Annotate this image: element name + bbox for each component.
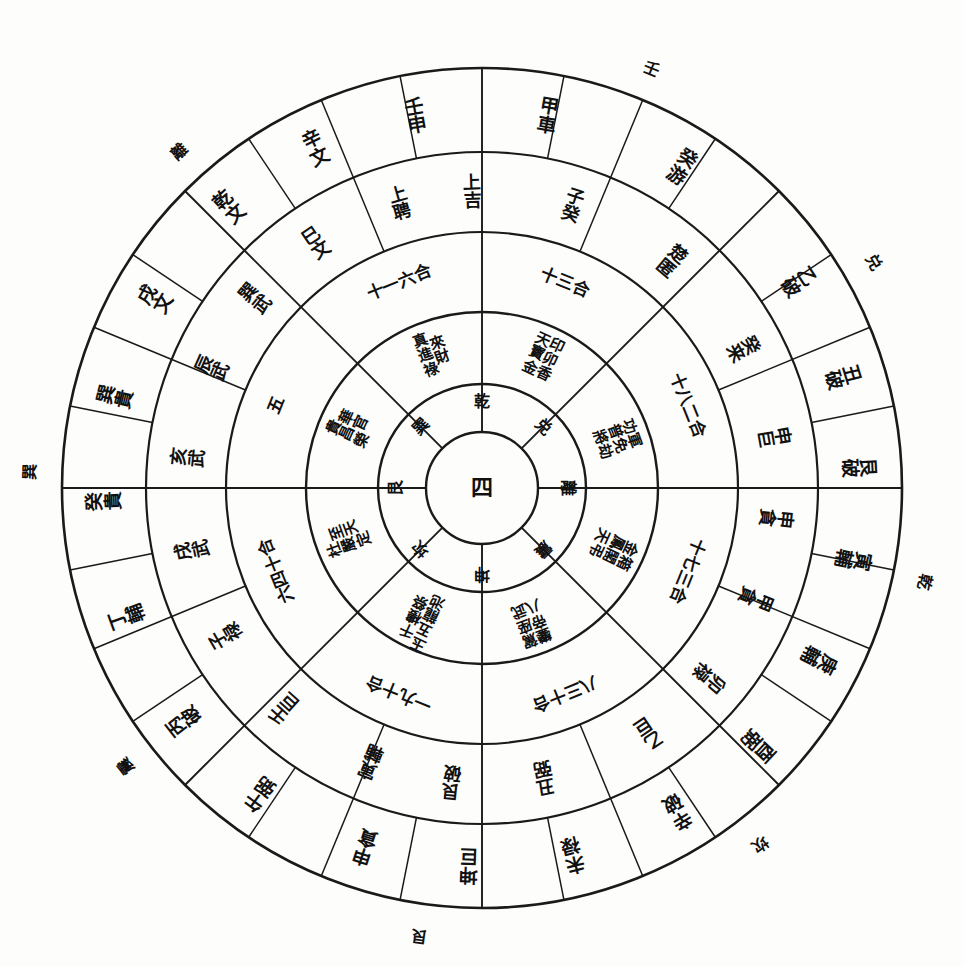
- mid-ring-cell-8[interactable]: 丑弼: [503, 737, 584, 818]
- glyph: 破: [442, 763, 462, 783]
- glyph: 艮: [388, 480, 404, 496]
- glyph: 巨: [754, 428, 775, 449]
- glyph: 乾: [474, 394, 490, 410]
- mid-ring-cell-3[interactable]: 申巨: [734, 397, 813, 476]
- glyph: 艮: [859, 458, 879, 478]
- outer-ring-cell-0[interactable]: 甲車: [508, 76, 587, 155]
- glyph: 榮: [352, 430, 372, 450]
- glyph: 禄: [560, 834, 583, 857]
- glyph: 五: [265, 394, 287, 416]
- outer-ring-cell-20[interactable]: 壬申: [377, 76, 456, 155]
- glyph: 貴: [113, 387, 136, 410]
- outside-label-4: 艮: [381, 897, 458, 966]
- glyph: 離: [168, 141, 191, 164]
- glyph: 巽: [410, 416, 433, 439]
- glyph: 貪: [356, 826, 380, 850]
- mid-ring-cell-4[interactable]: 申貪: [739, 482, 814, 557]
- glyph: 武: [187, 448, 207, 468]
- outer-ring-cell-4[interactable]: 艮破: [824, 432, 895, 503]
- core-center-glyph: 四: [448, 454, 516, 522]
- mid-ring-cell-14[interactable]: 亥武: [150, 420, 225, 495]
- outside-label-2: 乾: [884, 542, 964, 623]
- glyph: 文: [308, 144, 334, 170]
- glyph: 癸: [559, 204, 582, 227]
- glyph: 乾: [914, 572, 933, 591]
- outside-label-6: 巽: [0, 437, 65, 507]
- glyph: 弼: [531, 758, 552, 780]
- outer-ring-cell-5[interactable]: 寅輔: [813, 520, 893, 600]
- glyph: 貪: [736, 584, 760, 608]
- glyph: 申: [407, 114, 429, 136]
- glyph: 坎: [749, 833, 772, 856]
- glyph: 巽: [22, 464, 39, 481]
- glyph: 武: [208, 359, 232, 383]
- glyph: 文: [150, 291, 176, 317]
- mid-ring-cell-9[interactable]: 艮破: [414, 745, 489, 820]
- glyph: 吉: [463, 192, 482, 211]
- glyph: 離: [560, 480, 576, 496]
- glyph: 坤: [474, 566, 490, 582]
- glyph: 震: [114, 755, 137, 778]
- glyph: 巨: [459, 846, 479, 866]
- glyph: 輔: [124, 602, 149, 626]
- mid-ring-cell-19[interactable]: 上吉: [436, 157, 506, 227]
- glyph: 兑: [862, 251, 884, 273]
- glyph: 坤: [459, 865, 479, 885]
- glyph: 壬: [641, 58, 662, 79]
- glyph: 車: [535, 114, 557, 136]
- mid-ring-cell-13[interactable]: 戌武: [152, 509, 233, 590]
- glyph: 兑: [531, 416, 554, 439]
- glyph: 艮: [410, 926, 428, 944]
- glyph: 武: [191, 537, 213, 558]
- glyph: 震: [531, 537, 554, 560]
- glyph: 貪: [757, 508, 777, 528]
- glyph: 破: [822, 368, 846, 392]
- glyph: 輔: [832, 547, 855, 569]
- glyph: 池: [428, 591, 448, 611]
- ring-spoke: [70, 554, 152, 570]
- glyph: 貴: [104, 491, 124, 511]
- glyph: 四: [471, 477, 493, 499]
- glyph: 破: [840, 459, 860, 479]
- glyph: 坎: [410, 537, 433, 560]
- glyph: 文: [309, 238, 334, 263]
- glyph: 聘: [392, 201, 414, 224]
- outer-ring-cell-10[interactable]: 坤巨: [434, 831, 504, 901]
- glyph: 輔: [363, 742, 387, 766]
- outer-ring-cell-15[interactable]: 癸貴: [69, 466, 139, 536]
- chart-canvas: 壬兑乾坎艮震巽離甲車癸游乙破丑破艮破寅輔庚輔酉弼辛破未禄坤巨申貪午弼丙破丁輔癸貴…: [0, 0, 964, 966]
